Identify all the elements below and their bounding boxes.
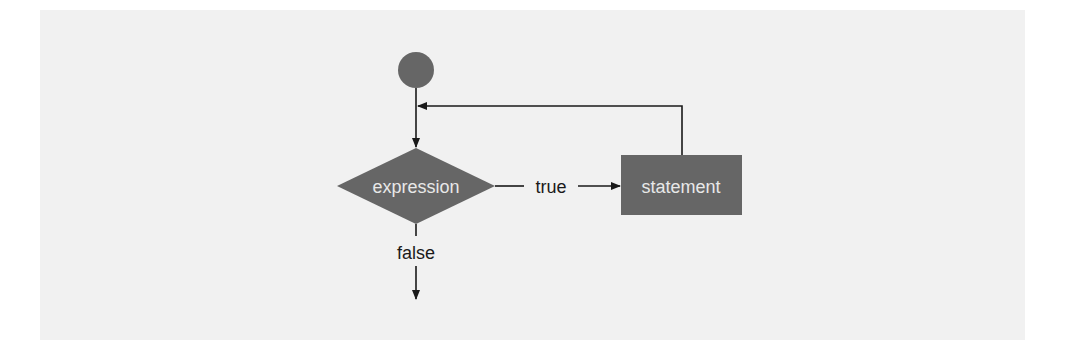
start-node [398, 52, 434, 88]
true-branch-label: true [535, 177, 566, 197]
flowchart: expression true statement false [0, 0, 1072, 352]
decision-label: expression [372, 177, 459, 197]
statement-node: statement [621, 155, 742, 215]
false-branch-label: false [397, 243, 435, 263]
loop-back-connector [418, 106, 682, 155]
decision-node: expression [337, 148, 495, 224]
statement-label: statement [641, 177, 720, 197]
